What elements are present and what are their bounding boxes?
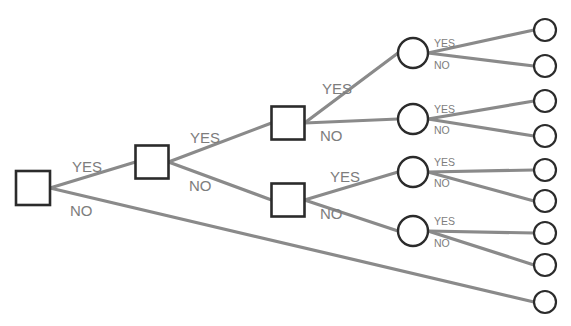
edge-label-yes: YES [322, 80, 352, 97]
tree-edge-yes [428, 231, 534, 233]
tree-edge-yes [428, 170, 534, 172]
edge-label-no: NO [320, 127, 343, 144]
edge-label-no: NO [434, 124, 450, 136]
edge-label-yes: YES [434, 37, 455, 49]
chance-node-circle[interactable] [398, 104, 428, 134]
tree-canvas: YESNOYESNOYESNOYESNOYESNOYESNOYESNOYESNO [0, 0, 571, 326]
tree-edge-no [169, 162, 272, 200]
chance-node-circle[interactable] [398, 216, 428, 246]
terminal-node-circle[interactable] [534, 19, 556, 41]
terminal-node-circle[interactable] [534, 222, 556, 244]
chance-node-circle[interactable] [398, 38, 428, 68]
edge-labels-layer: YESNOYESNOYESNOYESNOYESNOYESNOYESNOYESNO [70, 37, 455, 249]
edge-label-yes: YES [434, 103, 455, 115]
terminal-node-circle[interactable] [534, 90, 556, 112]
edge-label-yes: YES [72, 158, 102, 175]
decision-tree-diagram: YESNOYESNOYESNOYESNOYESNOYESNOYESNOYESNO [0, 0, 571, 326]
decision-node-square[interactable] [16, 171, 50, 205]
decision-node-square[interactable] [272, 184, 305, 217]
terminal-node-circle[interactable] [534, 159, 556, 181]
terminal-node-circle[interactable] [534, 125, 556, 147]
decision-node-square[interactable] [136, 146, 169, 179]
chance-node-circle[interactable] [398, 157, 428, 187]
edge-label-no: NO [434, 177, 450, 189]
edge-label-yes: YES [330, 168, 360, 185]
edge-label-yes: YES [434, 215, 455, 227]
edge-label-no: NO [320, 205, 343, 222]
tree-edge-no [305, 119, 399, 123]
edge-label-no: NO [70, 202, 93, 219]
edge-label-no: NO [434, 59, 450, 71]
edge-label-yes: YES [434, 156, 455, 168]
edge-label-yes: YES [190, 129, 220, 146]
edges-layer [50, 30, 534, 302]
tree-edge-no [305, 200, 399, 231]
terminal-node-circle[interactable] [534, 55, 556, 77]
terminal-node-circle[interactable] [534, 190, 556, 212]
terminal-node-circle[interactable] [534, 254, 556, 276]
decision-node-square[interactable] [272, 107, 305, 140]
terminal-node-circle[interactable] [534, 291, 556, 313]
edge-label-no: NO [434, 237, 450, 249]
edge-label-no: NO [189, 177, 212, 194]
